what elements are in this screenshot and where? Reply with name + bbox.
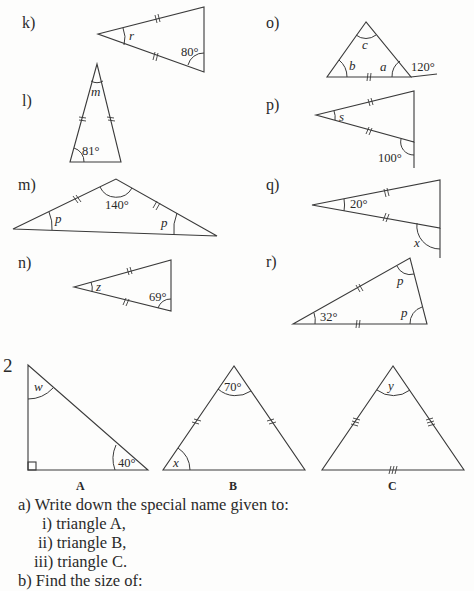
angle-s: s xyxy=(339,109,344,124)
angle-z: z xyxy=(95,279,101,294)
angle-40: 40° xyxy=(118,456,136,470)
triangle-q: q) 20° x xyxy=(266,176,440,258)
question-a-iii: iii) triangle C. xyxy=(34,554,127,571)
angle-w: w xyxy=(34,379,43,394)
item-label-p: p) xyxy=(266,96,279,114)
angle-p-right: p xyxy=(160,215,168,230)
angle-32: 32° xyxy=(320,310,338,324)
worksheet-page: k) r 80° l) m 81° m) 140° p p n) xyxy=(0,0,474,591)
triangle-m: m) 140° p p xyxy=(13,176,217,236)
angle-p-bottom: p xyxy=(400,305,408,320)
angle-120: 120° xyxy=(411,60,435,74)
angle-p-left: p xyxy=(54,211,62,226)
question-a-ii: ii) triangle B, xyxy=(38,535,126,552)
triangle-l: l) m 81° xyxy=(22,64,121,162)
triangle-o: o) c b a 120° xyxy=(266,14,437,81)
triangle-r: r) 32° p p xyxy=(266,253,427,328)
angle-p-top: p xyxy=(396,273,404,288)
question-a: a) Write down the special name given to: xyxy=(18,497,289,514)
question-b: b) Find the size of: xyxy=(18,573,143,590)
angle-x-B: x xyxy=(172,455,179,470)
angle-69: 69° xyxy=(149,290,167,304)
item-label-o: o) xyxy=(266,14,279,32)
triangle-C: y C xyxy=(322,366,464,493)
item-label-r: r) xyxy=(266,253,277,271)
angle-r: r xyxy=(129,28,135,43)
angle-81: 81° xyxy=(82,144,100,158)
question-a-i: i) triangle A, xyxy=(42,516,126,533)
angle-x-q: x xyxy=(413,235,420,250)
item-label-k: k) xyxy=(22,14,35,32)
triangle-k: k) r 80° xyxy=(22,7,204,72)
triangle-A: w 40° A xyxy=(28,365,148,493)
triangle-name-B: B xyxy=(229,479,237,493)
angle-20: 20° xyxy=(350,197,368,211)
exercise-2-number: 2 xyxy=(3,355,13,376)
item-label-l: l) xyxy=(22,92,32,110)
angle-m: m xyxy=(91,84,100,99)
angle-70: 70° xyxy=(224,380,242,394)
triangle-p: p) s 100° xyxy=(266,91,414,168)
angle-b: b xyxy=(349,58,356,73)
angle-c: c xyxy=(362,37,368,52)
angle-a: a xyxy=(380,59,387,74)
triangle-name-C: C xyxy=(388,479,397,493)
angle-80: 80° xyxy=(181,45,199,59)
angle-y: y xyxy=(386,378,394,393)
item-label-n: n) xyxy=(18,254,31,272)
angle-100: 100° xyxy=(378,151,402,165)
triangle-n: n) z 69° xyxy=(18,254,171,311)
triangle-name-A: A xyxy=(76,479,85,493)
item-label-q: q) xyxy=(266,176,279,194)
item-label-m: m) xyxy=(18,176,36,194)
angle-140: 140° xyxy=(105,198,129,212)
triangle-B: 70° x B xyxy=(163,366,305,493)
